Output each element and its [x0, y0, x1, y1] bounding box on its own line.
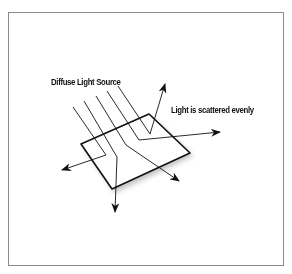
scattered-light-label: Light is scattered evenly — [171, 104, 254, 115]
diffuse-reflection-diagram — [0, 0, 292, 274]
diffuse-light-source-label: Diffuse Light Source — [51, 76, 121, 87]
